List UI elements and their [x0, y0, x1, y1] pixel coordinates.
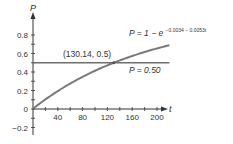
y-tick-label: 0.2: [17, 87, 29, 96]
x-tick-label: 40: [53, 113, 62, 122]
x-tick-label: 120: [101, 113, 115, 122]
x-axis-label: t: [169, 104, 172, 114]
x-axis-arrow-icon: [161, 107, 168, 112]
x-tick-label: 200: [150, 113, 164, 122]
chart: −0.200.20.40.60.84080120160200 P t (130.…: [0, 0, 233, 144]
y-tick-label: 0: [24, 105, 29, 114]
ticks: −0.200.20.40.60.84080120160200: [12, 31, 164, 133]
y-tick-label: 0.4: [17, 68, 29, 77]
intersection-point: [112, 61, 115, 64]
curve-eq-lhs: P = 1 − e: [129, 28, 163, 38]
y-tick-label: 0.6: [17, 50, 29, 59]
y-axis-arrow-icon: [31, 12, 36, 19]
y-tick-label: −0.2: [12, 124, 28, 133]
curve-equation-label: P = 1 − e −0.0034 − 0.0053t: [129, 27, 207, 38]
x-tick-label: 160: [126, 113, 140, 122]
y-axis-label: P: [30, 3, 36, 13]
x-tick-label: 80: [78, 113, 87, 122]
curve-eq-exponent: −0.0034 − 0.0053t: [166, 27, 207, 33]
hline-equation-label: P = 0.50: [129, 65, 161, 75]
y-tick-label: 0.8: [17, 31, 29, 40]
intersection-label: (130.14, 0.5): [63, 49, 111, 59]
